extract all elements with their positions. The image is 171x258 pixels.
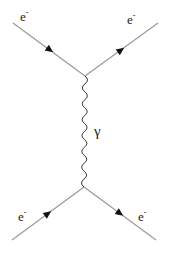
photon-label: γ	[93, 123, 101, 139]
fermion-line-outgoing-top: e-	[85, 11, 158, 76]
arrow-icon	[115, 208, 126, 218]
electron-label: e-	[127, 11, 136, 27]
fermion-line-incoming-bottom: e-	[12, 187, 84, 240]
electron-label: e-	[20, 8, 29, 24]
arrow-icon	[116, 45, 127, 55]
feynman-diagram: e- e- e- e- γ	[0, 0, 171, 258]
electron-label: e-	[18, 208, 27, 224]
photon-propagator: γ	[82, 76, 101, 187]
electron-label: e-	[138, 208, 147, 224]
fermion-line-incoming-top: e-	[13, 8, 85, 76]
fermion-line-outgoing-bottom: e-	[84, 187, 156, 240]
arrow-icon	[43, 208, 54, 218]
